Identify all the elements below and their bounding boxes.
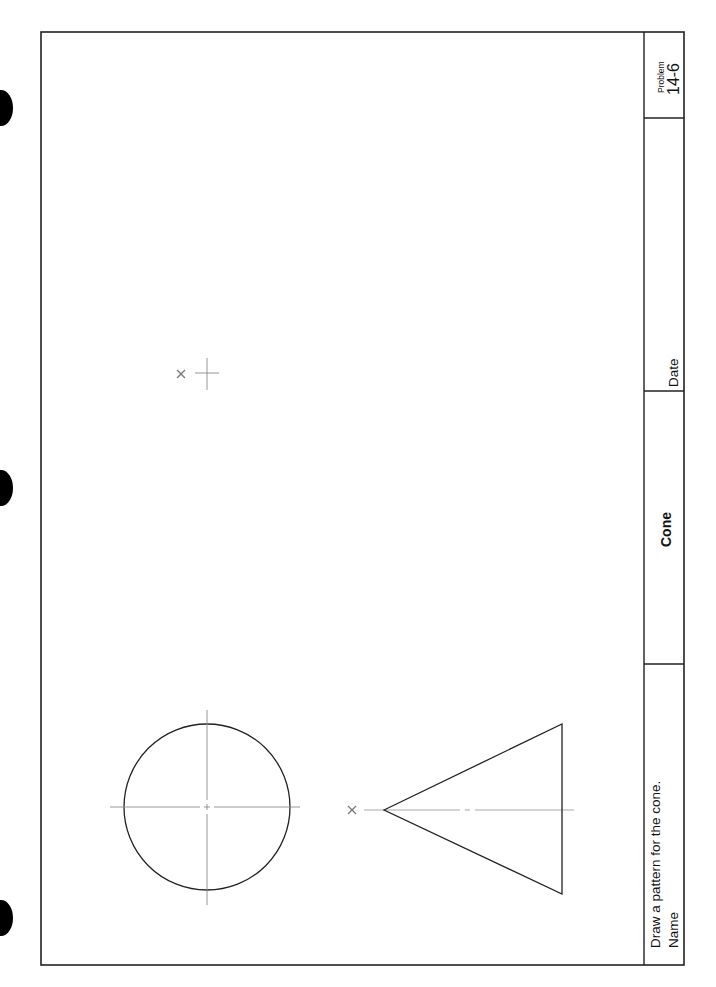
drawing-sheet: [0, 0, 716, 987]
date-field-label: Date: [666, 358, 681, 387]
reference-marker-top: [177, 358, 219, 390]
name-field-label: Name: [666, 912, 681, 948]
drawing-title: Cone: [658, 512, 674, 547]
problem-number: 14-6: [665, 63, 683, 95]
sheet-border: [41, 32, 684, 965]
instruction-text: Draw a pattern for the cone.: [648, 781, 663, 948]
cone-elevation: [348, 724, 574, 894]
circle-view: [110, 710, 300, 905]
cone-triangle: [384, 724, 562, 894]
